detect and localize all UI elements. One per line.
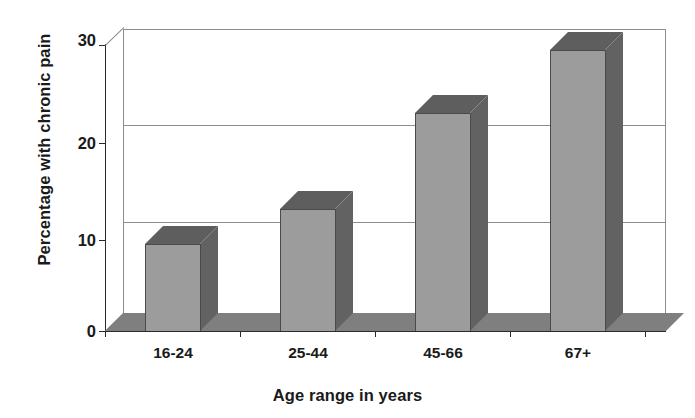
x-axis-line xyxy=(105,331,666,332)
x-tick-label-67plus: 67+ xyxy=(518,344,638,362)
plot-frame-top xyxy=(123,29,666,30)
floor-wedge-right xyxy=(666,313,684,331)
depth-edge-top-left xyxy=(105,27,124,45)
bar-side-face-67plus xyxy=(605,32,623,331)
x-tick-mark-4 xyxy=(645,331,646,337)
y-axis-title: Percentage with chronic pain xyxy=(35,0,54,300)
y-tick-label-30: 30 xyxy=(52,31,96,50)
x-tick-label-16-24: 16-24 xyxy=(113,344,233,362)
y-axis-line xyxy=(105,44,106,332)
y-tick-label-20: 20 xyxy=(52,134,96,153)
bar-side-face-16-24 xyxy=(200,226,218,331)
plot-frame-back-right xyxy=(665,29,666,314)
x-axis-title: Age range in years xyxy=(0,386,695,405)
bar-front-face-25-44 xyxy=(280,209,336,332)
plot-frame-back-left xyxy=(123,29,124,314)
y-tick-label-10: 10 xyxy=(52,231,96,250)
x-tick-mark-2 xyxy=(375,331,376,337)
bar-side-face-25-44 xyxy=(335,191,353,331)
x-tick-label-25-44: 25-44 xyxy=(248,344,368,362)
x-tick-mark-1 xyxy=(240,331,241,337)
bar-front-face-67plus xyxy=(550,50,606,332)
x-tick-mark-0 xyxy=(105,331,106,337)
x-tick-label-45-66: 45-66 xyxy=(383,344,503,362)
bar-front-face-16-24 xyxy=(145,244,201,332)
chart-container: Percentage with chronic pain 0 10 20 30 xyxy=(0,0,695,418)
floor-wedge-left xyxy=(105,313,123,331)
y-tick-mark-20 xyxy=(99,143,106,144)
bar-front-face-45-66 xyxy=(415,113,471,332)
y-tick-label-0: 0 xyxy=(52,322,96,341)
x-tick-mark-3 xyxy=(510,331,511,337)
y-tick-mark-10 xyxy=(99,240,106,241)
bar-side-face-45-66 xyxy=(470,95,488,331)
